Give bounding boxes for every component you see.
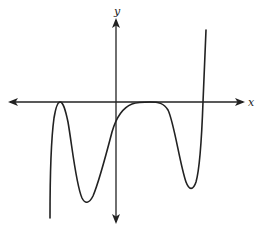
polynomial-curve bbox=[50, 30, 206, 218]
y-axis-label: y bbox=[113, 5, 121, 18]
polynomial-graph: y x bbox=[0, 0, 263, 235]
x-axis-label: x bbox=[248, 96, 255, 109]
